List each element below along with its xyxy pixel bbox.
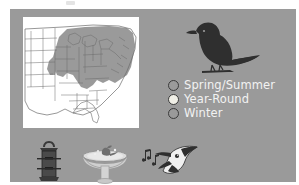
legend-item-year-round[interactable]: Year-Round [168, 92, 299, 106]
legend-item-label: Winter [184, 107, 223, 120]
birdbath-icon [81, 142, 129, 185]
range-map [23, 17, 139, 128]
legend-item-winter[interactable]: Winter [168, 106, 299, 120]
slide-canvas: Spring/Summer Year-Round Winter [0, 0, 299, 185]
legend-item-label: Spring/Summer [184, 79, 275, 92]
perched-songbird-silhouette [178, 20, 264, 76]
circle-icon [168, 80, 179, 91]
circle-icon [168, 94, 179, 105]
top-edge-artifact [66, 1, 75, 5]
singing-bird-icon [141, 143, 201, 183]
bird-feeder-icon [36, 139, 62, 185]
legend-item-spring-summer[interactable]: Spring/Summer [168, 78, 299, 92]
content-panel: Spring/Summer Year-Round Winter [10, 9, 296, 182]
legend-item-label: Year-Round [184, 93, 249, 106]
range-legend: Spring/Summer Year-Round Winter [168, 78, 299, 120]
circle-icon [168, 108, 179, 119]
